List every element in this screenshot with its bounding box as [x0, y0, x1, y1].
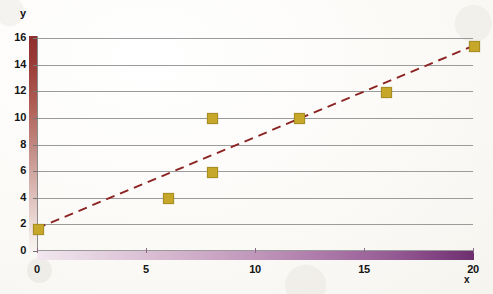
x-tick-label: 10 — [240, 263, 270, 275]
y-tick-label: 8 — [0, 138, 26, 150]
y-tick-label: 12 — [0, 84, 26, 96]
y-tick-mark — [33, 171, 38, 172]
y-tick-mark — [33, 38, 38, 39]
y-tick-mark — [33, 198, 38, 199]
y-tick-label: 2 — [0, 217, 26, 229]
data-point-marker — [294, 113, 305, 124]
gridline — [37, 118, 473, 119]
gridline — [37, 65, 473, 66]
x-tick-mark — [146, 248, 147, 253]
y-tick-mark — [33, 224, 38, 225]
x-tick-label: 20 — [458, 263, 488, 275]
y-tick-mark — [33, 65, 38, 66]
scatter-chart: y 0246810121416 05101520 x — [0, 0, 493, 294]
gridline — [37, 38, 473, 39]
y-tick-mark — [33, 91, 38, 92]
x-tick-mark — [255, 248, 256, 253]
y-tick-mark — [33, 118, 38, 119]
data-point-marker — [207, 113, 218, 124]
data-point-marker — [163, 193, 174, 204]
data-point-marker — [381, 87, 392, 98]
y-tick-label: 6 — [0, 164, 26, 176]
y-tick-label: 4 — [0, 191, 26, 203]
x-tick-mark — [37, 248, 38, 253]
y-tick-label: 14 — [0, 58, 26, 70]
x-tick-label: 5 — [131, 263, 161, 275]
x-tick-mark — [473, 248, 474, 253]
gridline — [37, 145, 473, 146]
data-point-marker — [469, 41, 480, 52]
y-tick-label: 10 — [0, 111, 26, 123]
x-tick-label: 0 — [22, 263, 52, 275]
gridline — [37, 91, 473, 92]
y-tick-label: 16 — [0, 31, 26, 43]
y-tick-label: 0 — [0, 244, 26, 256]
trendline — [37, 46, 473, 228]
x-tick-label: 15 — [349, 263, 379, 275]
gridline — [37, 198, 473, 199]
y-tick-mark — [33, 145, 38, 146]
y-axis-title: y — [20, 7, 26, 19]
gridline — [37, 171, 473, 172]
gridline — [37, 224, 473, 225]
data-point-marker — [207, 167, 218, 178]
x-axis-title: x — [464, 274, 470, 285]
x-tick-mark — [364, 248, 365, 253]
